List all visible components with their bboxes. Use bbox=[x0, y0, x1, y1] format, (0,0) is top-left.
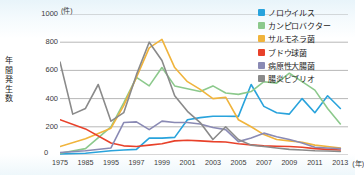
x-tick-2007: 2007 bbox=[256, 158, 272, 167]
legend-item-campylobacter[interactable]: カンピロバクター bbox=[258, 19, 354, 32]
legend-label-norovirus: ノロウイルス bbox=[268, 7, 315, 18]
y-axis-tick-labels: 1000800600400200 bbox=[22, 0, 58, 175]
x-tick-2011: 2011 bbox=[307, 158, 322, 167]
x-axis-unit: (年) bbox=[352, 158, 364, 168]
x-tick-2009: 2009 bbox=[281, 158, 297, 167]
x-tick-1997: 1997 bbox=[128, 158, 144, 167]
legend-label-staphylococcus: ブドウ球菌 bbox=[268, 47, 307, 58]
legend-label-salmonella: サルモネラ菌 bbox=[268, 33, 315, 44]
legend-swatch-vibrio bbox=[258, 75, 265, 82]
legend-swatch-pathogenic-ecoli bbox=[258, 62, 265, 69]
legend-label-campylobacter: カンピロバクター bbox=[268, 20, 330, 31]
legend-swatch-salmonella bbox=[258, 35, 265, 42]
x-tick-2005: 2005 bbox=[230, 158, 246, 167]
y-tick-200: 200 bbox=[24, 122, 58, 131]
legend-label-vibrio: 腸炎ビブリオ bbox=[268, 73, 315, 84]
legend-label-pathogenic-ecoli: 病原性大腸菌 bbox=[268, 60, 315, 71]
x-tick-2013: 2013 bbox=[332, 158, 348, 167]
x-tick-1995: 1995 bbox=[103, 158, 119, 167]
legend-item-salmonella[interactable]: サルモネラ菌 bbox=[258, 32, 354, 45]
legend-item-staphylococcus[interactable]: ブドウ球菌 bbox=[258, 46, 354, 59]
legend-swatch-staphylococcus bbox=[258, 49, 265, 56]
legend-item-vibrio[interactable]: 腸炎ビブリオ bbox=[258, 72, 354, 85]
chart-legend: ノロウイルスカンピロバクターサルモネラ菌ブドウ球菌病原性大腸菌腸炎ビブリオ bbox=[258, 6, 354, 85]
legend-swatch-campylobacter bbox=[258, 22, 265, 29]
x-tick-1975: 1975 bbox=[52, 158, 68, 167]
x-axis-tick-labels: 1975198519951997199920012003200520072009… bbox=[0, 158, 355, 170]
y-axis-title: 年間発生数 bbox=[3, 56, 14, 104]
x-tick-2003: 2003 bbox=[205, 158, 221, 167]
y-tick-400: 400 bbox=[24, 94, 58, 103]
y-tick-800: 800 bbox=[24, 37, 58, 46]
y-tick-600: 600 bbox=[24, 65, 58, 74]
x-tick-2001: 2001 bbox=[179, 158, 195, 167]
legend-swatch-norovirus bbox=[258, 9, 265, 16]
legend-item-norovirus[interactable]: ノロウイルス bbox=[258, 6, 354, 19]
y-axis-zero-label: 0 bbox=[44, 148, 48, 157]
x-tick-1985: 1985 bbox=[77, 158, 93, 167]
x-tick-1999: 1999 bbox=[154, 158, 170, 167]
legend-item-pathogenic-ecoli[interactable]: 病原性大腸菌 bbox=[258, 59, 354, 72]
y-tick-1000: 1000 bbox=[24, 9, 58, 18]
